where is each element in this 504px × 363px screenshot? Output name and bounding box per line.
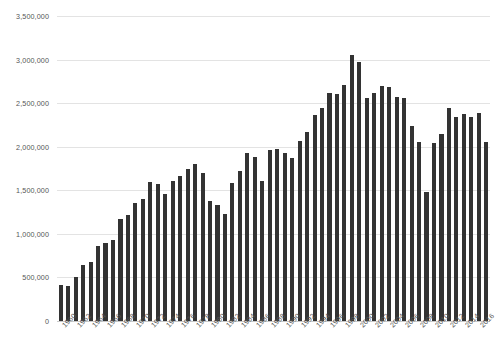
bar[interactable] — [417, 142, 421, 322]
bar[interactable] — [111, 240, 115, 321]
bar[interactable] — [253, 157, 257, 321]
bar[interactable] — [96, 246, 100, 321]
bar[interactable] — [156, 184, 160, 321]
y-tick-label: 2,000,000 — [0, 143, 49, 152]
bar[interactable] — [126, 215, 130, 321]
bar[interactable] — [103, 243, 107, 321]
bar[interactable] — [484, 142, 488, 322]
bar[interactable] — [268, 150, 272, 321]
bar[interactable] — [283, 153, 287, 321]
bar[interactable] — [395, 97, 399, 321]
bar[interactable] — [193, 164, 197, 321]
bar[interactable] — [148, 182, 152, 321]
bar-chart: 0500,0001,000,0001,500,0002,000,0002,500… — [0, 0, 504, 363]
bar[interactable] — [260, 181, 264, 321]
bar[interactable] — [275, 149, 279, 321]
bar[interactable] — [410, 126, 414, 321]
bar[interactable] — [201, 173, 205, 321]
bar[interactable] — [320, 108, 324, 322]
y-tick-label: 3,000,000 — [0, 56, 49, 65]
bar[interactable] — [335, 94, 339, 321]
bar[interactable] — [477, 113, 481, 321]
bar[interactable] — [223, 214, 227, 321]
y-tick-label: 1,500,000 — [0, 186, 49, 195]
bar[interactable] — [290, 158, 294, 321]
bar[interactable] — [118, 219, 122, 321]
bar[interactable] — [372, 93, 376, 321]
bar[interactable] — [469, 117, 473, 321]
bar[interactable] — [89, 262, 93, 321]
bar[interactable] — [424, 192, 428, 321]
bar[interactable] — [133, 203, 137, 321]
bar[interactable] — [350, 55, 354, 321]
bar[interactable] — [313, 115, 317, 321]
bar[interactable] — [59, 285, 63, 321]
y-tick-label: 500,000 — [0, 273, 49, 282]
bar-series — [57, 16, 490, 321]
bar[interactable] — [402, 98, 406, 321]
bar[interactable] — [171, 181, 175, 321]
y-tick-label: 0 — [0, 317, 49, 326]
bar[interactable] — [357, 62, 361, 321]
bar[interactable] — [298, 141, 302, 321]
bar[interactable] — [454, 117, 458, 321]
bar[interactable] — [208, 201, 212, 321]
bar[interactable] — [230, 183, 234, 321]
bar[interactable] — [305, 132, 309, 321]
y-tick-label: 2,500,000 — [0, 99, 49, 108]
y-tick-label: 1,000,000 — [0, 230, 49, 239]
bar[interactable] — [141, 199, 145, 321]
bar[interactable] — [215, 205, 219, 321]
x-axis: 1960196219641966196819701972197419761978… — [57, 323, 490, 363]
bar[interactable] — [245, 153, 249, 321]
bar[interactable] — [447, 108, 451, 321]
y-tick-label: 3,500,000 — [0, 12, 49, 21]
bar[interactable] — [342, 85, 346, 321]
bar[interactable] — [432, 143, 436, 321]
bar[interactable] — [380, 86, 384, 321]
bar[interactable] — [327, 93, 331, 321]
bar[interactable] — [178, 176, 182, 321]
bar[interactable] — [238, 171, 242, 321]
bar[interactable] — [365, 98, 369, 321]
bar[interactable] — [439, 134, 443, 321]
bar[interactable] — [462, 114, 466, 321]
bar[interactable] — [163, 194, 167, 321]
bar[interactable] — [387, 87, 391, 321]
plot-area — [57, 16, 490, 321]
bar[interactable] — [186, 169, 190, 321]
